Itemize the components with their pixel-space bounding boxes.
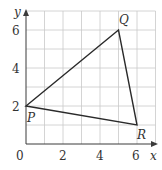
grid <box>26 11 156 144</box>
point-label-r: R <box>136 128 146 142</box>
y-axis-label: y <box>13 5 21 19</box>
origin-label: 0 <box>16 149 24 163</box>
x-tick-label: 4 <box>96 149 104 163</box>
x-tick-label: 6 <box>132 149 140 163</box>
y-tick-label: 6 <box>12 24 20 38</box>
y-axis-arrow-icon <box>23 9 29 16</box>
y-tick-label: 4 <box>12 62 20 76</box>
coordinate-diagram: x y 0 2 4 6 2 4 6 P Q R <box>0 0 162 170</box>
point-label-p: P <box>26 111 36 125</box>
x-axis-label: x <box>150 149 157 163</box>
y-tick-label: 2 <box>12 100 20 114</box>
point-label-q: Q <box>119 13 129 27</box>
x-axis-arrow-icon <box>151 141 158 147</box>
x-tick-label: 2 <box>59 149 67 163</box>
